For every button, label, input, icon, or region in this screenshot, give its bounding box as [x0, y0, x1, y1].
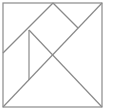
tangram-diagram — [0, 0, 113, 109]
tangram-svg — [0, 0, 113, 109]
square-right-edge-line — [53, 3, 78, 28]
parallelogram-left-edge-line — [3, 3, 53, 53]
